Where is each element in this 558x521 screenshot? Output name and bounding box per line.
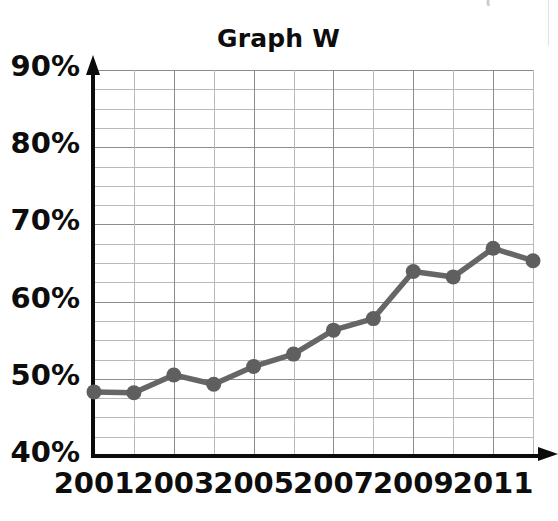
gridline-x-2012 [533,70,534,456]
gridline-y-85 [94,109,533,110]
gridline-y-65 [94,263,533,264]
gridline-y-67.5 [94,244,533,245]
gridline-y-42.5 [94,437,533,438]
gridline-y-75 [94,186,533,187]
x-axis-arrowhead [538,447,558,461]
gridline-x-2006 [294,70,295,456]
gridline-y-82.5 [94,128,533,129]
gridline-x-2010 [453,70,454,456]
gridline-y-47.5 [94,398,533,399]
x-tick-label-2011: 2011 [433,466,553,500]
y-tick-label-60: 60% [0,281,80,315]
y-tick-label-80: 80% [0,126,80,160]
gridline-x-2003 [174,70,175,456]
scan-artifact-text: ( [485,0,545,6]
gridline-x-2009 [413,70,414,456]
gridline-y-52.5 [94,360,533,361]
gridline-y-90 [94,70,533,71]
gridline-x-2008 [373,70,374,456]
gridline-y-77.5 [94,167,533,168]
y-tick-label-50: 50% [0,358,80,392]
y-axis-line [91,72,95,458]
gridline-y-70 [94,224,533,225]
chart-title: Graph W [0,24,557,53]
gridline-y-60 [94,302,533,303]
gridline-x-2005 [254,70,255,456]
gridline-y-80 [94,147,533,148]
plot-area [94,70,533,456]
gridline-x-2002 [134,70,135,456]
gridline-x-2004 [214,70,215,456]
gridline-y-45 [94,417,533,418]
gridline-y-50 [94,379,533,380]
gridline-y-62.5 [94,282,533,283]
gridline-y-87.5 [94,89,533,90]
x-axis-line [91,454,541,458]
y-tick-label-90: 90% [0,49,80,83]
gridline-y-55 [94,340,533,341]
y-tick-label-70: 70% [0,203,80,237]
gridline-x-2011 [493,70,494,456]
gridline-y-72.5 [94,205,533,206]
gridline-y-57.5 [94,321,533,322]
gridline-x-2007 [333,70,334,456]
y-axis-arrowhead [86,55,100,75]
y-tick-label-40: 40% [0,435,80,469]
